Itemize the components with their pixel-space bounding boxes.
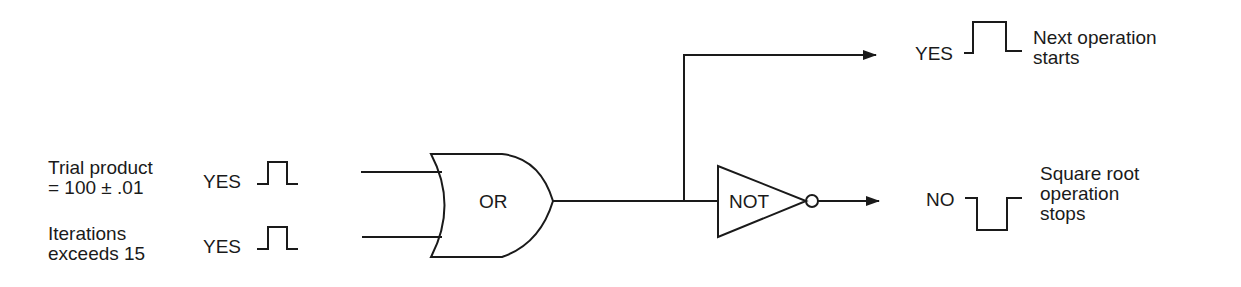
- pulse-yes-icon: [257, 162, 298, 184]
- input-1-label-line1: Trial product: [48, 158, 153, 178]
- not-gate-label: NOT: [729, 192, 769, 212]
- pulse-no-icon: [965, 198, 1022, 230]
- input-2-label-line2: exceeds 15: [48, 244, 145, 264]
- pulse-yes-icon: [964, 22, 1022, 53]
- output-1-label-line2: starts: [1033, 48, 1079, 68]
- output-1-signal: YES: [915, 44, 953, 64]
- output-2-label-line1: Square root: [1040, 164, 1139, 184]
- input-2-signal: YES: [203, 237, 241, 257]
- output-2-signal: NO: [926, 190, 955, 210]
- or-gate-label: OR: [479, 192, 508, 212]
- input-1-signal: YES: [203, 172, 241, 192]
- pulse-yes-icon: [257, 227, 298, 249]
- output-2-label-line3: stops: [1040, 204, 1085, 224]
- output-2-label-line2: operation: [1040, 184, 1119, 204]
- input-2-label-line1: Iterations: [48, 224, 126, 244]
- output-1-label-line1: Next operation: [1033, 28, 1157, 48]
- input-1-label-line2: = 100 ± .01: [48, 178, 143, 198]
